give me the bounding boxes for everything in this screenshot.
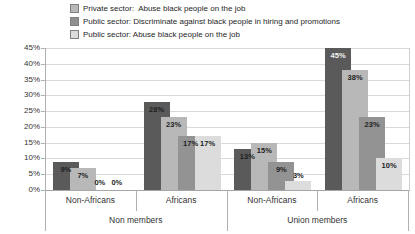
x-category-label: Non-Africans [45, 190, 136, 211]
y-tick-label: 20% [14, 122, 40, 131]
bar-value-label: 23% [359, 120, 385, 129]
public-sector-abuse-swatch [70, 30, 79, 39]
legend-item: Public sector: Discriminate against blac… [70, 15, 340, 28]
y-tick-label: 40% [14, 59, 40, 68]
legend-item: Public sector: Abuse black people on the… [70, 28, 340, 41]
legend-item: Private sector: Abuse black people on th… [70, 2, 340, 15]
y-tick-label: 45% [14, 43, 40, 52]
x-axis-separator [408, 190, 409, 231]
plot-area: 9%7%0%0%28%23%17%17%13%15%9%3%45%38%23%1… [45, 48, 410, 191]
x-axis-separator [136, 190, 137, 211]
x-axis-separator [227, 190, 228, 231]
legend-item-label: Private sector: Abuse black people on th… [83, 2, 245, 15]
x-axis-separator [317, 190, 318, 211]
bar-value-label: 45% [325, 51, 351, 60]
y-tick-label: 5% [14, 169, 40, 178]
public-sector-discriminate-swatch [70, 17, 79, 26]
bar-value-label: 3% [285, 171, 311, 180]
y-tick-label: 30% [14, 90, 40, 99]
x-category-label: Africans [317, 190, 408, 211]
y-tick-label: 10% [14, 153, 40, 162]
private-sector-abuse-swatch [70, 4, 79, 13]
x-group-label: Union members [227, 211, 409, 231]
gridline [46, 48, 409, 49]
gridline [46, 64, 409, 65]
chart-legend: Private sector: Abuse black people on th… [70, 2, 340, 41]
x-category-label: Africans [136, 190, 227, 211]
bar-value-label: 28% [144, 105, 170, 114]
x-group-label: Non members [45, 211, 227, 231]
bar-value-label: 17% [195, 139, 221, 148]
x-axis-separator [45, 190, 46, 231]
bar-value-label: 10% [376, 161, 402, 170]
bar-value-label: 0% [104, 178, 130, 187]
y-tick-label: 0% [14, 185, 40, 194]
bar-value-label: 38% [342, 73, 368, 82]
y-tick-label: 35% [14, 75, 40, 84]
y-tick-label: 15% [14, 138, 40, 147]
bar [285, 181, 311, 190]
bar-value-label: 15% [251, 146, 277, 155]
bar-chart: Private sector: Abuse black people on th… [0, 0, 415, 234]
x-category-label: Non-Africans [227, 190, 318, 211]
legend-item-label: Public sector: Discriminate against blac… [83, 15, 340, 28]
bar-value-label: 23% [161, 120, 187, 129]
y-tick-label: 25% [14, 106, 40, 115]
legend-item-label: Public sector: Abuse black people on the… [83, 28, 240, 41]
